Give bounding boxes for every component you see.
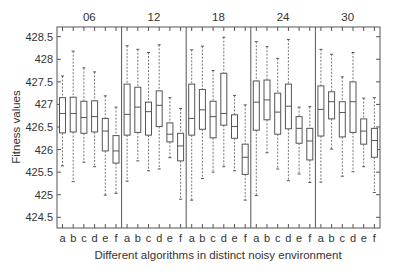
- y-tick-label: 425: [35, 189, 53, 201]
- box-iqr: [253, 81, 259, 130]
- box-iqr: [146, 102, 152, 135]
- x-tick-label: d: [221, 232, 227, 244]
- x-tick-label: c: [146, 232, 152, 244]
- box-18-e: [232, 95, 238, 170]
- panel-06: [60, 51, 120, 195]
- y-tick-label: 426: [35, 144, 53, 156]
- x-tick-label: e: [361, 232, 367, 244]
- box-06-d: [92, 72, 98, 167]
- box-iqr: [70, 97, 76, 132]
- box-iqr: [210, 101, 216, 138]
- x-tick-label: b: [329, 232, 335, 244]
- y-axis-title: Fitness values: [10, 90, 22, 164]
- box-iqr: [318, 86, 324, 136]
- box-18-f: [242, 105, 248, 200]
- x-axis-title: Different algorithms in distinct noisy e…: [94, 249, 342, 261]
- box-30-b: [329, 54, 335, 149]
- x-tick-label: d: [285, 232, 291, 244]
- box-iqr: [189, 84, 195, 135]
- x-tick-label: e: [102, 232, 108, 244]
- box-24-d: [285, 39, 291, 180]
- panel-titles: 0612182430: [83, 11, 354, 23]
- box-18-b: [199, 46, 205, 178]
- panel-30: [315, 27, 377, 228]
- box-12-f: [178, 108, 184, 199]
- x-tick-label: c: [81, 232, 87, 244]
- x-tick-label: d: [156, 232, 162, 244]
- box-24-c: [275, 58, 281, 169]
- box-iqr: [296, 117, 302, 144]
- box-24-f: [307, 107, 313, 183]
- box-12-c: [146, 53, 152, 171]
- box-iqr: [275, 93, 281, 134]
- panel-18: [186, 27, 248, 228]
- x-tick-label: e: [296, 232, 302, 244]
- x-tick-label: a: [189, 232, 196, 244]
- box-06-f: [113, 107, 119, 193]
- panel-24: [251, 27, 313, 228]
- box-12-d: [156, 45, 162, 169]
- box-iqr: [350, 82, 356, 133]
- x-tick-label: c: [210, 232, 216, 244]
- box-18-a: [189, 50, 195, 200]
- box-iqr: [102, 118, 108, 151]
- x-tick-label: f: [308, 232, 312, 244]
- x-tick-label: f: [114, 232, 118, 244]
- plot-panels: [60, 27, 378, 228]
- box-iqr: [60, 98, 66, 133]
- x-tick-label: c: [340, 232, 346, 244]
- box-iqr: [329, 92, 335, 119]
- x-tick-label: b: [70, 232, 76, 244]
- box-iqr: [156, 91, 162, 127]
- box-06-c: [81, 68, 87, 162]
- x-tick-label: a: [253, 232, 260, 244]
- box-06-a: [60, 76, 66, 166]
- box-12-a: [124, 46, 130, 181]
- x-tick-label: f: [373, 232, 377, 244]
- box-30-a: [318, 49, 324, 182]
- box-iqr: [339, 102, 345, 137]
- y-tick-label: 425.5: [25, 166, 53, 178]
- x-tick-label: d: [92, 232, 98, 244]
- x-tick-label: b: [135, 232, 141, 244]
- panel-12: [122, 27, 184, 228]
- x-tick-label: f: [244, 232, 248, 244]
- box-iqr: [178, 133, 184, 161]
- box-18-d: [221, 37, 227, 167]
- x-tick-label: e: [167, 232, 173, 244]
- box-24-b: [264, 47, 270, 153]
- panel-title: 30: [341, 11, 354, 23]
- box-12-e: [167, 98, 173, 158]
- box-30-f: [371, 98, 377, 193]
- box-06-b: [70, 51, 76, 181]
- y-tick-label: 428: [35, 53, 53, 65]
- box-06-e: [102, 96, 108, 195]
- x-tick-label: c: [275, 232, 281, 244]
- box-iqr: [371, 128, 377, 157]
- panel-title: 06: [83, 11, 96, 23]
- y-tick-label: 424.5: [25, 211, 53, 223]
- box-12-b: [135, 49, 141, 161]
- box-30-d: [350, 53, 356, 172]
- y-tick-label: 427.5: [25, 76, 53, 88]
- y-tick-label: 428.5: [25, 31, 53, 43]
- box-18-c: [210, 71, 216, 173]
- panel-title: 24: [277, 11, 290, 23]
- box-24-e: [296, 107, 302, 174]
- x-tick-label: a: [59, 232, 66, 244]
- boxplot-chart: 0612182430 424.5425425.5426426.5427427.5…: [0, 0, 394, 271]
- x-tick-label: d: [350, 232, 356, 244]
- panel-title: 12: [148, 11, 161, 23]
- box-iqr: [221, 73, 227, 125]
- box-iqr: [113, 136, 119, 164]
- panel-title: 18: [212, 11, 225, 23]
- x-tick-label: e: [231, 232, 237, 244]
- box-30-c: [339, 77, 345, 176]
- box-iqr: [135, 87, 141, 132]
- y-tick-label: 427: [35, 98, 53, 110]
- box-iqr: [242, 144, 248, 174]
- y-tick-label: 426.5: [25, 121, 53, 133]
- x-tick-label: a: [124, 232, 131, 244]
- x-tick-label: b: [199, 232, 205, 244]
- x-tick-label: b: [264, 232, 270, 244]
